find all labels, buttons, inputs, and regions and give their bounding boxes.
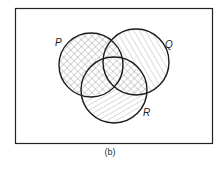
label-r: R — [143, 107, 150, 118]
label-p: P — [55, 37, 62, 48]
figure-caption: (b) — [0, 147, 220, 157]
label-q: Q — [165, 39, 173, 50]
